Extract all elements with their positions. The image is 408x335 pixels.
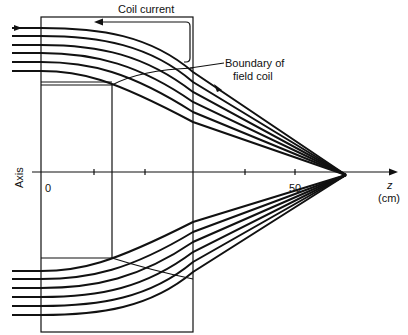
tick-label-50: 50 bbox=[289, 182, 301, 194]
boundary-label-line2: field coil bbox=[233, 70, 273, 82]
unit-label: (cm) bbox=[378, 192, 400, 204]
axis-label: Axis bbox=[13, 167, 25, 188]
boundary-leader bbox=[190, 63, 224, 68]
z-label: z bbox=[387, 179, 393, 191]
magnetic-lens-diagram bbox=[0, 0, 408, 335]
ray-arrow-icon bbox=[14, 25, 22, 31]
tick-label-0: 0 bbox=[45, 182, 51, 194]
coil-current-arrow-icon bbox=[94, 19, 103, 26]
z-axis-arrow-icon bbox=[389, 169, 398, 176]
coil-current-label: Coil current bbox=[118, 3, 174, 15]
boundary-label-line1: Boundary of bbox=[225, 57, 284, 69]
